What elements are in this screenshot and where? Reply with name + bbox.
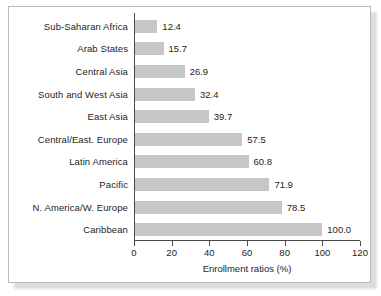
bar [134,42,164,55]
bar-row: Pacific71.9 [9,173,372,196]
bar-value-label: 78.5 [287,202,306,213]
bar-row: Caribbean100.0 [9,218,372,241]
bar-category-label: Pacific [9,179,128,190]
x-axis-tick-mark [134,241,135,246]
bar-category-label: South and West Asia [9,89,128,100]
bar-container: 60.8 [134,151,272,174]
x-axis-ticks: 020406080100120 [134,241,360,263]
figure-root: Sub-Saharan Africa12.4Arab States15.7Cen… [0,0,381,296]
bar-value-label: 39.7 [214,111,233,122]
x-axis-tick-label: 100 [314,247,330,258]
x-axis-tick-mark [247,241,248,246]
bar-row: East Asia39.7 [9,105,372,128]
bar-value-label: 60.8 [254,156,273,167]
bar-category-label: Caribbean [9,224,128,235]
x-axis-tick-mark [322,241,323,246]
bar-rows: Sub-Saharan Africa12.4Arab States15.7Cen… [9,15,372,241]
x-axis-tick-label: 80 [279,247,290,258]
x-axis-tick-label: 40 [204,247,215,258]
x-axis-tick-label: 120 [352,247,368,258]
chart-frame: Sub-Saharan Africa12.4Arab States15.7Cen… [8,6,371,283]
bar-container: 71.9 [134,173,293,196]
bar-container: 12.4 [134,15,181,38]
x-axis-tick-mark [285,241,286,246]
bar-row: Arab States15.7 [9,38,372,61]
x-axis-tick-label: 60 [242,247,253,258]
bar [134,110,209,123]
bar-value-label: 26.9 [190,66,209,77]
x-axis-tick-mark [209,241,210,246]
x-axis-tick-label: 20 [166,247,177,258]
bar-value-label: 57.5 [247,134,266,145]
bar-row: Central Asia26.9 [9,60,372,83]
bar [134,201,282,214]
bar-value-label: 15.7 [169,43,188,54]
bar-container: 78.5 [134,196,305,219]
bar-chart-plot: Sub-Saharan Africa12.4Arab States15.7Cen… [9,7,370,282]
bar-container: 15.7 [134,38,187,61]
bar-container: 100.0 [134,218,351,241]
bar-category-label: N. America/W. Europe [9,202,128,213]
x-axis-tick-mark [360,241,361,246]
bar [134,133,242,146]
bar-category-label: Latin America [9,156,128,167]
bar-category-label: Arab States [9,43,128,54]
bar [134,178,269,191]
bar [134,155,249,168]
bar-container: 26.9 [134,60,208,83]
bar-row: Sub-Saharan Africa12.4 [9,15,372,38]
bar-category-label: East Asia [9,111,128,122]
x-axis-tick-label: 0 [131,247,136,258]
bar-value-label: 12.4 [162,21,181,32]
bar-value-label: 32.4 [200,89,219,100]
bar-row: Central/East. Europe57.5 [9,128,372,151]
y-axis-line [134,13,135,241]
x-axis-tick-mark [172,241,173,246]
bar-container: 57.5 [134,128,266,151]
bar [134,88,195,101]
bar [134,65,185,78]
bar-value-label: 100.0 [327,224,351,235]
bar [134,223,322,236]
bar-row: Latin America60.8 [9,151,372,174]
bar-category-label: Central/East. Europe [9,134,128,145]
bar-value-label: 71.9 [274,179,293,190]
bar-row: N. America/W. Europe78.5 [9,196,372,219]
bar-row: South and West Asia32.4 [9,83,372,106]
bar-category-label: Sub-Saharan Africa [9,21,128,32]
bar-container: 32.4 [134,83,219,106]
bar-container: 39.7 [134,105,232,128]
bar-category-label: Central Asia [9,66,128,77]
x-axis-title: Enrollment ratios (%) [134,263,360,274]
bar [134,20,157,33]
